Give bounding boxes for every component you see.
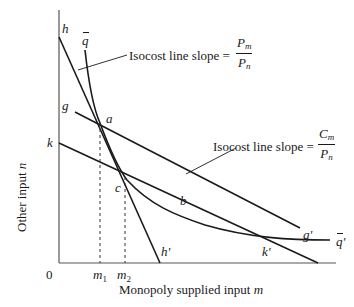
tick-m1: m1 bbox=[93, 268, 107, 284]
label-k: k bbox=[47, 136, 53, 149]
label-g-prime: g' bbox=[303, 228, 312, 241]
label-h-prime: h' bbox=[161, 245, 170, 258]
x-axis-label: Monopoly supplied input m bbox=[119, 283, 263, 296]
label-q-bar: q bbox=[82, 34, 89, 47]
label-k-prime: k' bbox=[262, 245, 271, 258]
point-a: a bbox=[106, 112, 113, 125]
isocost-line-kk bbox=[59, 143, 318, 263]
point-c: c bbox=[115, 181, 121, 194]
label-q-bar-prime: q' bbox=[336, 235, 345, 248]
y-axis-label: Other input n bbox=[14, 163, 30, 232]
isocost-annotation-top: Isocost line slope = bbox=[129, 49, 230, 62]
point-b: b bbox=[180, 194, 187, 207]
isocost-annotation-right: Isocost line slope = bbox=[213, 140, 314, 153]
label-g: g bbox=[62, 99, 69, 112]
origin-label: 0 bbox=[46, 268, 53, 281]
isocost-fraction-right: Cm Pn bbox=[318, 127, 335, 162]
isocost-line-gg bbox=[75, 112, 300, 228]
label-h: h bbox=[62, 22, 69, 35]
isocost-fraction-top: Pm Pn bbox=[236, 36, 252, 71]
